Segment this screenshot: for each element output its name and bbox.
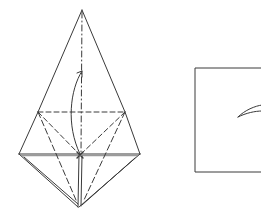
origami-diagram — [0, 0, 261, 210]
valley-fold-right-diagonal — [80, 112, 125, 155]
kite-figure — [19, 10, 140, 207]
center-dash-line — [81, 12, 82, 153]
lower-left-flap — [19, 154, 78, 207]
center-vertical — [78, 155, 82, 207]
kite-right-edge — [82, 10, 140, 154]
square-curve-arrow — [238, 105, 261, 117]
square-figure — [195, 68, 261, 172]
valley-fold-left-diagonal — [38, 112, 80, 155]
lower-right-flap — [79, 154, 140, 207]
square-outline — [195, 68, 261, 172]
